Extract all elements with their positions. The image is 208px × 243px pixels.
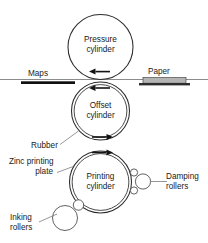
offset-press-diagram: Maps Paper Pressure cylinder Offset cyli… [0, 0, 208, 243]
paper-base-bar [139, 83, 190, 85]
offset-cylinder-label-line1: Offset [90, 101, 112, 110]
inking-rollers-group [53, 200, 84, 231]
inking-rollers-label-line2: rollers [10, 223, 32, 232]
paper-sheet [143, 78, 186, 84]
zinc-plate-label-line1: Zinc printing [9, 157, 54, 166]
press-diagram-canvas: Maps Paper Pressure cylinder Offset cyli… [0, 0, 208, 243]
damping-roller-top [130, 169, 137, 176]
paper-label: Paper [148, 67, 170, 76]
zinc-plate-label-line2: plate [35, 167, 53, 176]
damping-roller-large [135, 174, 150, 189]
damping-rollers-label-line1: Damping [166, 172, 199, 181]
maps-label: Maps [28, 69, 48, 78]
rubber-label: Rubber [31, 141, 58, 150]
inking-roller-large [53, 206, 78, 231]
damping-rollers-label-line2: rollers [166, 182, 188, 191]
pressure-cylinder-label-line1: Pressure [84, 35, 117, 44]
rubber-leader-line [60, 131, 79, 145]
printing-cylinder-label-line2: cylinder [86, 182, 114, 191]
offset-cylinder-label-line2: cylinder [86, 111, 114, 120]
damping-roller-bottom [130, 187, 137, 194]
inking-roller-small [73, 200, 83, 210]
maps-stack-bar [21, 81, 75, 84]
pressure-cylinder-rotation-arrow [89, 69, 110, 75]
printing-cylinder-rotation-arrow [92, 150, 113, 156]
pressure-cylinder-label-line2: cylinder [86, 45, 114, 54]
printing-cylinder-label-line1: Printing [87, 172, 115, 181]
inking-rollers-label-line1: Inking [10, 213, 32, 222]
damping-rollers-group [130, 169, 150, 194]
